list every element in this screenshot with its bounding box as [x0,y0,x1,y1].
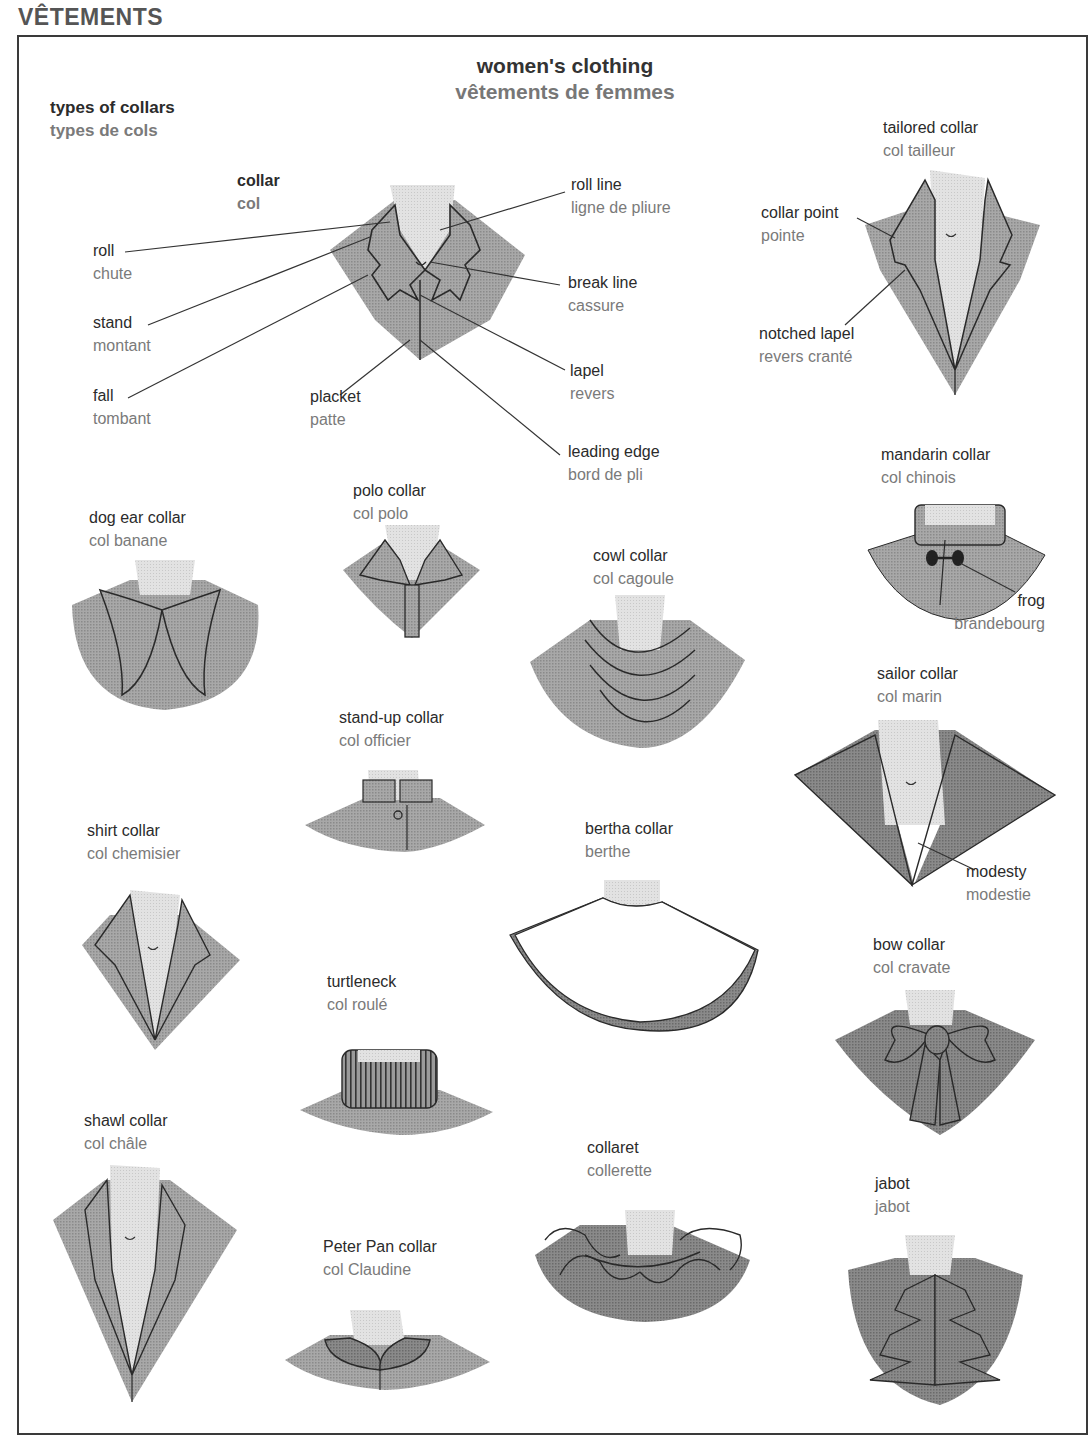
label-collar: collar col [237,169,280,215]
page-title: women's clothing vêtements de femmes [380,53,750,105]
label-lapel: lapel revers [570,359,614,405]
label-polo-collar: polo collar col polo [353,479,426,525]
subtitle: types of collars types de cols [50,96,175,142]
label-break-line: break line cassure [568,271,637,317]
label-leading-edge: leading edge bord de pli [568,440,660,486]
section-title: VÊTEMENTS [18,4,163,31]
title-en: women's clothing [380,53,750,79]
label-notched-lapel: notched lapel revers cranté [759,322,854,368]
label-tailored-collar: tailored collar col tailleur [883,116,978,162]
label-cowl-collar: cowl collar col cagoule [593,544,674,590]
label-sailor-collar: sailor collar col marin [877,662,958,708]
diagram-frame [17,35,1088,1435]
label-peter-pan-collar: Peter Pan collar col Claudine [323,1235,437,1281]
label-modesty: modesty modestie [966,860,1031,906]
title-fr: vêtements de femmes [380,79,750,105]
label-collaret: collaret collerette [587,1136,652,1182]
label-frog: frog brandebourg [939,589,1045,635]
label-collar-point: collar point pointe [761,201,838,247]
label-roll-line: roll line ligne de pliure [571,173,671,219]
label-jabot: jabot jabot [875,1172,910,1218]
label-stand-up-collar: stand-up collar col officier [339,706,444,752]
label-bertha-collar: bertha collar berthe [585,817,673,863]
label-shirt-collar: shirt collar col chemisier [87,819,180,865]
label-turtleneck: turtleneck col roulé [327,970,396,1016]
label-placket: placket patte [310,385,361,431]
label-fall: fall tombant [93,384,151,430]
label-mandarin-collar: mandarin collar col chinois [881,443,990,489]
label-shawl-collar: shawl collar col châle [84,1109,168,1155]
label-stand: stand montant [93,311,151,357]
label-dog-ear-collar: dog ear collar col banane [89,506,186,552]
label-roll: roll chute [93,239,132,285]
label-bow-collar: bow collar col cravate [873,933,950,979]
